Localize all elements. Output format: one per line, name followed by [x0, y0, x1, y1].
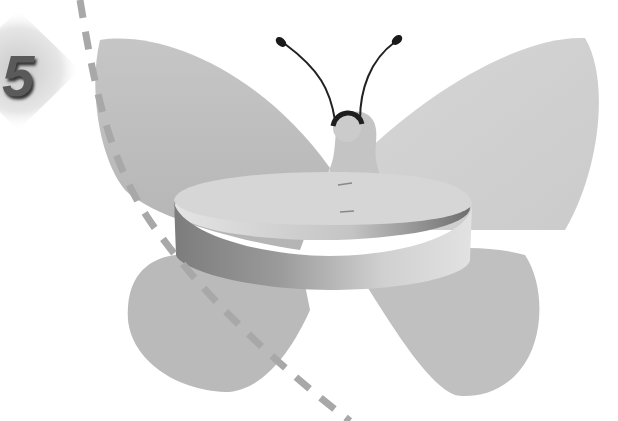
ring-top-rim: [174, 172, 472, 225]
butterfly-illustration: [0, 0, 618, 421]
left-antenna-tip: [274, 35, 288, 49]
slit-mark: [340, 211, 354, 212]
left-antenna: [285, 44, 335, 120]
right-antenna: [360, 42, 395, 120]
